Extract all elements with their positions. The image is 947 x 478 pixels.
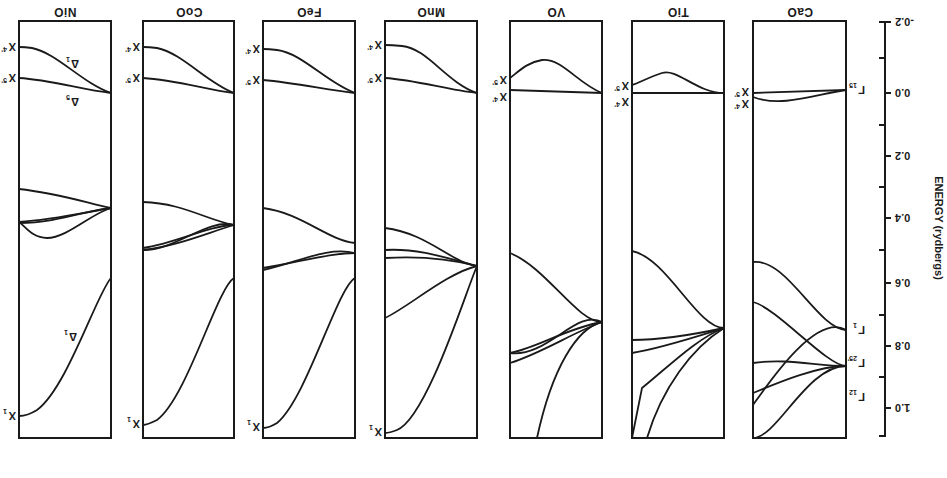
svg-text:4': 4' (245, 48, 251, 55)
panel-feo: FeO (263, 5, 355, 438)
axis-title: ENERGY (rydbergs) (933, 176, 945, 280)
svg-text:25': 25' (847, 355, 857, 362)
gamma-label: Γ (858, 391, 865, 403)
panel-title: CaO (787, 5, 813, 19)
panel-title: FeO (297, 5, 322, 19)
gamma-label: Γ (858, 324, 865, 336)
panel-mno: MnO (385, 5, 477, 438)
svg-text:5: 5 (66, 94, 70, 101)
panel-vo: VO (510, 5, 602, 438)
svg-text:5': 5' (492, 79, 498, 86)
panel-title: CoO (176, 5, 203, 19)
tick-label: 0.2 (895, 150, 910, 162)
x-label: X (132, 418, 140, 430)
svg-text:4': 4' (367, 44, 373, 51)
x-label: X (252, 74, 260, 86)
panel-tio: TiO (632, 5, 724, 438)
x-label: X (374, 39, 382, 51)
panel-cao: CaO (753, 5, 846, 438)
gamma-label: Γ (858, 84, 865, 96)
x-label: X (252, 43, 260, 55)
energy-axis: -0.2 0.0 0.2 0.4 0.6 0.8 1.0 ENERGY (ryd… (879, 16, 945, 436)
delta-label: Δ (71, 96, 79, 108)
delta-label: Δ (71, 58, 79, 70)
svg-text:5': 5' (125, 77, 131, 84)
svg-text:4': 4' (614, 101, 620, 108)
x-label: X (374, 72, 382, 84)
svg-text:5': 5' (1, 77, 7, 84)
panel-title: TiO (667, 5, 688, 19)
gamma-label: Γ (858, 357, 865, 369)
svg-text:4': 4' (125, 46, 131, 53)
svg-text:5': 5' (367, 77, 373, 84)
band-structure-figure: -0.2 0.0 0.2 0.4 0.6 0.8 1.0 ENERGY (ryd… (0, 0, 947, 478)
panel-nio: NiO (19, 5, 111, 438)
svg-text:4': 4' (492, 96, 498, 103)
x-label: X (252, 421, 260, 433)
svg-text:5': 5' (245, 79, 251, 86)
tick-label: 0.6 (895, 277, 910, 289)
svg-text:1: 1 (369, 424, 373, 431)
tick-label: 0.8 (895, 340, 910, 352)
tick-label: 0.4 (894, 212, 910, 224)
x-label: X (741, 98, 749, 110)
delta-label: Δ (69, 331, 77, 343)
tick-label: 1.0 (895, 402, 910, 414)
x-label: X (8, 410, 16, 422)
panel-coo: CoO (143, 5, 234, 438)
x-label: X (132, 72, 140, 84)
x-label: X (8, 41, 16, 53)
panel-title: VO (547, 5, 565, 19)
svg-text:1: 1 (3, 408, 7, 415)
svg-text:5': 5' (734, 91, 740, 98)
svg-text:1: 1 (66, 56, 70, 63)
svg-text:1: 1 (64, 329, 68, 336)
x-label: X (374, 426, 382, 438)
panel-title: NiO (54, 5, 77, 19)
x-label: X (741, 86, 749, 98)
panel-title: MnO (417, 5, 445, 19)
tick-label: -0.2 (895, 16, 914, 28)
svg-text:4': 4' (734, 103, 740, 110)
svg-text:4': 4' (1, 46, 7, 53)
x-label: X (8, 72, 16, 84)
svg-text:1: 1 (247, 419, 251, 426)
svg-text:1: 1 (127, 416, 131, 423)
svg-text:15: 15 (849, 82, 857, 89)
svg-text:5': 5' (614, 85, 620, 92)
x-label: X (499, 74, 507, 86)
x-label: X (621, 80, 629, 92)
x-label: X (132, 41, 140, 53)
x-label: X (499, 91, 507, 103)
svg-text:1: 1 (853, 322, 857, 329)
tick-label: 0.0 (895, 87, 910, 99)
x-label: X (621, 96, 629, 108)
svg-text:12: 12 (849, 389, 857, 396)
